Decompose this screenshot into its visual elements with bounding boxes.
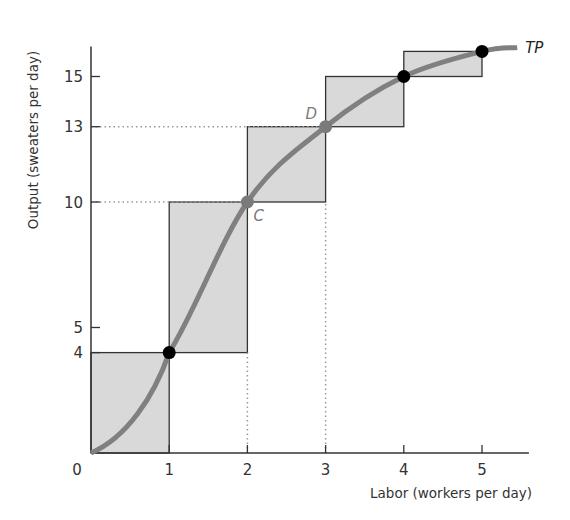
x-tick-label: 1 xyxy=(164,461,174,479)
y-tick-label: 13 xyxy=(64,118,83,136)
y-axis-title: Output (sweaters per day) xyxy=(25,51,41,229)
data-point xyxy=(397,70,410,83)
y-tick-label: 15 xyxy=(64,68,83,86)
y-axis-ticks: 45101315 xyxy=(64,68,100,362)
tp-curve-label: TP xyxy=(525,39,544,57)
x-tick-label: 5 xyxy=(477,461,487,479)
point-label-c: C xyxy=(253,207,264,225)
data-point xyxy=(163,346,176,359)
x-tick-label: 0 xyxy=(72,461,82,479)
point-label-d: D xyxy=(306,105,318,123)
x-tick-label: 3 xyxy=(321,461,331,479)
total-product-chart: 012345 45101315 CD TP Labor (workers per… xyxy=(0,0,570,520)
y-tick-label: 5 xyxy=(73,319,83,337)
x-axis-title: Labor (workers per day) xyxy=(370,485,532,501)
data-point xyxy=(241,196,254,209)
x-tick-label: 2 xyxy=(243,461,253,479)
y-tick-label: 4 xyxy=(73,344,83,362)
y-tick-label: 10 xyxy=(64,194,83,212)
data-point xyxy=(476,45,489,58)
data-point xyxy=(319,120,332,133)
marginal-product-box xyxy=(91,353,169,453)
x-tick-label: 4 xyxy=(399,461,409,479)
